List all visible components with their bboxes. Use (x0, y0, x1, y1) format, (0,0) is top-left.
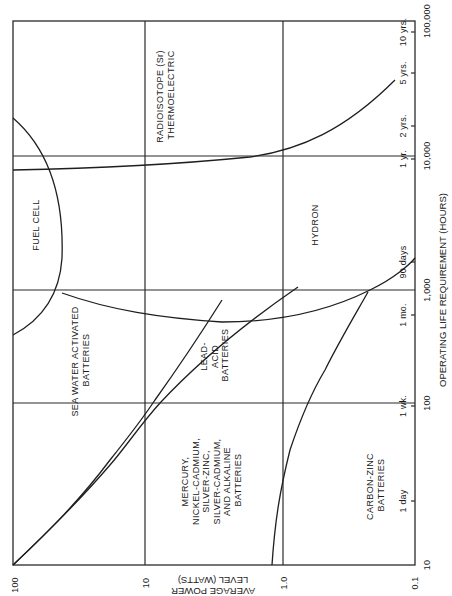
power-tick-100: 100 (10, 577, 20, 593)
life-tick-100: 100 (422, 395, 432, 411)
life-tick-100000: 100,000 (422, 4, 432, 38)
life-axis: 10 100 1,000 10,000 100,000 1 day 1 wk. … (398, 4, 448, 570)
region-label-fuel-cell: FUEL CELL (31, 199, 41, 250)
power-source-chart: MERCURY, NICKEL-CADMIUM, SILVER-ZINC, SI… (0, 0, 452, 596)
time-marker-2-yrs: 2 yrs. (398, 114, 408, 137)
region-label-carbon-zinc: CARBON-ZINC BATTERIES (365, 450, 386, 520)
time-marker-1-wk: 1 wk. (398, 395, 408, 417)
region-label-sea-water: SEA WATER ACTIVATED BATTERIES (70, 303, 91, 416)
time-marker-1-day: 1 day (398, 489, 408, 512)
time-marker-90-days: 90 days (398, 245, 408, 278)
life-tick-10: 10 (422, 560, 432, 570)
region-label-lead-acid: LEAD- ACID BATTERIES (199, 329, 230, 382)
power-axis-title-line1: AVERAGE POWER (171, 586, 255, 596)
region-labels: MERCURY, NICKEL-CADMIUM, SILVER-ZINC, SI… (31, 47, 386, 525)
region-label-radioisotope: RADIOISOTOPE (Sr) THERMOELECTRIC (155, 47, 176, 143)
power-tick-10: 10 (141, 578, 151, 588)
time-marker-5-yrs: 5 yrs. (398, 61, 408, 84)
life-axis-title: OPERATING LIFE REQUIREMENT (HOURS) (437, 193, 448, 387)
life-tick-10000: 10,000 (422, 142, 432, 171)
region-label-mercury: MERCURY, NICKEL-CADMIUM, SILVER-ZINC, SI… (180, 435, 243, 525)
time-marker-1-yr: 1 yr. (398, 150, 408, 168)
time-marker-10-yrs: 10 yrs. (398, 18, 408, 46)
power-axis-title-line2: LEVEL (WATTS) (178, 575, 248, 586)
power-axis: 100 10 1.0 0.1 LEVEL (WATTS) AVERAGE POW… (10, 575, 420, 596)
power-tick-0-1: 0.1 (410, 576, 420, 589)
life-tick-1000: 1,000 (422, 278, 432, 302)
region-label-hydron: HYDRON (310, 204, 320, 245)
time-marker-1-mo: 1 mo. (398, 303, 408, 327)
curve-carbon-zinc (272, 292, 368, 565)
curve-lead-acid-lower (13, 287, 298, 565)
power-tick-1: 1.0 (279, 576, 289, 589)
